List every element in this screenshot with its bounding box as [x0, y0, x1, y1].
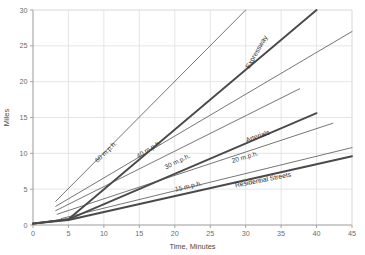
chart-background — [0, 0, 365, 255]
x-tick-label: 10 — [100, 229, 108, 238]
y-tick-label: 10 — [20, 149, 28, 158]
line-chart: 051015202530354045 051015202530 60 m.p.h… — [0, 0, 365, 255]
x-tick-label: 15 — [135, 229, 143, 238]
chart-container: 051015202530354045 051015202530 60 m.p.h… — [0, 0, 365, 255]
y-tick-label: 30 — [20, 6, 28, 15]
y-tick-label: 25 — [20, 41, 28, 50]
x-tick-label: 25 — [206, 229, 214, 238]
x-tick-label: 40 — [313, 229, 321, 238]
y-tick-label: 5 — [24, 185, 28, 194]
x-tick-label: 35 — [277, 229, 285, 238]
x-tick-label: 5 — [66, 229, 70, 238]
x-tick-label: 30 — [242, 229, 250, 238]
x-tick-label: 20 — [171, 229, 179, 238]
x-axis-title: Time, Minutes — [169, 242, 215, 251]
y-tick-label: 15 — [20, 113, 28, 122]
y-axis-title: Miles — [2, 109, 11, 127]
x-tick-label: 0 — [31, 229, 35, 238]
x-tick-label: 45 — [348, 229, 356, 238]
y-tick-label: 20 — [20, 77, 28, 86]
y-tick-label: 0 — [24, 221, 28, 230]
